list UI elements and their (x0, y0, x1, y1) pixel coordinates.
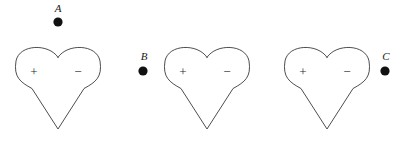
charge-group-b[interactable]: B (138, 50, 147, 76)
dipole-diagram: + − + − + − A B C (0, 0, 407, 141)
charge-dot-b[interactable] (138, 66, 147, 75)
heart-outline-3 (284, 47, 369, 129)
charge-label-a: A (54, 2, 62, 14)
heart-outline-2 (164, 47, 249, 129)
charge-dot-a[interactable] (53, 17, 62, 26)
charge-label-b: B (141, 50, 148, 62)
charge-dot-c[interactable] (380, 66, 389, 75)
dipole-group-3[interactable]: + − (284, 47, 369, 129)
figure-canvas: + − + − + − A B C (0, 0, 407, 141)
negative-pole-label-2: − (223, 64, 230, 79)
heart-outline-1 (15, 47, 100, 129)
dipole-group-1[interactable]: + − (15, 47, 100, 129)
positive-pole-label-2: + (179, 64, 186, 79)
dipole-group-2[interactable]: + − (164, 47, 249, 129)
charge-group-a[interactable]: A (53, 2, 62, 27)
charge-group-c[interactable]: C (380, 50, 390, 76)
charge-label-c: C (382, 50, 390, 62)
negative-pole-label-1: − (74, 64, 81, 79)
negative-pole-label-3: − (343, 64, 350, 79)
positive-pole-label-3: + (299, 64, 306, 79)
positive-pole-label-1: + (30, 64, 37, 79)
